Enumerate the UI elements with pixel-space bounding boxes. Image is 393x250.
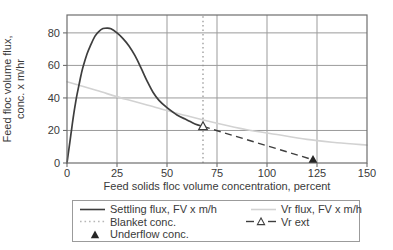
x-tick-label: 25: [111, 167, 123, 179]
y-axis-title: Feed floc volume flux, conc. x m/hr: [1, 13, 27, 165]
x-tick-label: 150: [358, 167, 376, 179]
blanket-conc-dotted-line-icon: [79, 216, 106, 227]
legend-label-vr-flux: Vr flux, FV x m/h: [281, 203, 362, 215]
vr-ext-dash-triangle-icon: [245, 216, 277, 227]
x-tick-label: 0: [64, 167, 70, 179]
y-axis-title-line1: Feed floc volume flux,: [1, 13, 14, 165]
settling-flux-line-icon: [79, 204, 106, 215]
settling-flux-curve: [67, 28, 203, 163]
legend-label-vr-ext: Vr ext: [281, 216, 309, 228]
vr-flux-line-icon: [245, 204, 277, 215]
underflow-triangle-icon: [79, 229, 106, 240]
x-tick-label: 100: [258, 167, 276, 179]
y-tick-label: 80: [48, 27, 60, 39]
x-tick-label: 75: [211, 167, 223, 179]
y-axis-title-line2: conc. x m/hr: [14, 13, 27, 165]
underflow-conc-triangle-filled: [309, 155, 318, 163]
legend-item-settling-flux: Settling flux, FV x m/h: [79, 203, 217, 216]
x-tick-label: 50: [161, 167, 173, 179]
legend-item-underflow-conc: Underflow conc.: [79, 228, 217, 241]
legend-item-blanket-conc: Blanket conc.: [79, 216, 217, 229]
chart-legend: Settling flux, FV x m/h Blanket conc. Un…: [72, 200, 360, 242]
y-tick-label: 20: [48, 124, 60, 136]
legend-label-blanket-conc: Blanket conc.: [110, 216, 176, 228]
legend-item-vr-ext: Vr ext: [245, 216, 362, 229]
x-tick-label: 125: [308, 167, 326, 179]
y-tick-label: 0: [54, 157, 60, 169]
y-tick-label: 40: [48, 92, 60, 104]
legend-label-settling-flux: Settling flux, FV x m/h: [110, 203, 217, 215]
legend-left-column: Settling flux, FV x m/h Blanket conc. Un…: [79, 203, 217, 241]
settling-flux-chart-figure: 0255075100125150020406080 Feed floc volu…: [0, 0, 393, 250]
legend-right-column: Vr flux, FV x m/h Vr ext: [245, 203, 362, 228]
x-axis-title: Feed solids floc volume concentration, p…: [67, 180, 367, 192]
legend-label-underflow-conc: Underflow conc.: [110, 228, 189, 240]
y-tick-label: 60: [48, 59, 60, 71]
legend-item-vr-flux: Vr flux, FV x m/h: [245, 203, 362, 216]
